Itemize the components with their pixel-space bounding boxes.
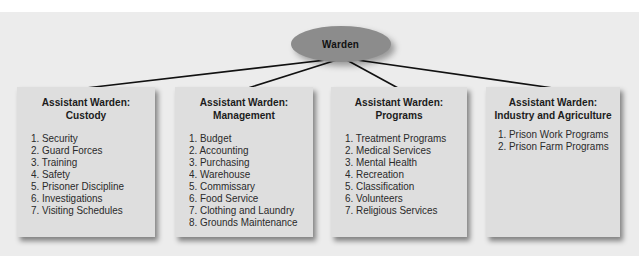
list-item: 2. Prison Farm Programs (498, 140, 608, 152)
programs-node: Assistant Warden: Programs 1. Treatment … (331, 87, 467, 237)
industry-title-line1: Assistant Warden: (494, 96, 612, 109)
management-title: Assistant Warden: Management (183, 96, 304, 122)
custody-title: Assistant Warden: Custody (25, 96, 146, 122)
custody-title-line2: Custody (25, 109, 146, 122)
programs-title-line1: Assistant Warden: (339, 96, 459, 109)
list-item: 7. Clothing and Laundry (189, 204, 301, 216)
management-title-line1: Assistant Warden: (183, 96, 304, 109)
list-item: 1. Security (31, 132, 143, 144)
programs-list: 1. Treatment Programs 2. Medical Service… (331, 132, 467, 216)
list-item: 7. Religious Services (345, 204, 455, 216)
list-item: 8. Grounds Maintenance (189, 216, 301, 228)
list-item: 2. Medical Services (345, 144, 455, 156)
warden-label: Warden (322, 38, 359, 50)
list-item: 4. Warehouse (189, 168, 301, 180)
industry-agriculture-list: 1. Prison Work Programs 2. Prison Farm P… (486, 128, 620, 152)
management-title-line2: Management (183, 109, 304, 122)
list-item: 6. Food Service (189, 192, 301, 204)
custody-title-line1: Assistant Warden: (25, 96, 146, 109)
list-item: 7. Visiting Schedules (31, 204, 143, 216)
industry-agriculture-node: Assistant Warden: Industry and Agricultu… (486, 87, 620, 237)
management-list: 1. Budget 2. Accounting 3. Purchasing 4.… (175, 132, 313, 228)
list-item: 3. Mental Health (345, 156, 455, 168)
list-item: 3. Training (31, 156, 143, 168)
list-item: 4. Safety (31, 168, 143, 180)
list-item: 5. Classification (345, 180, 455, 192)
list-item: 2. Accounting (189, 144, 301, 156)
list-item: 2. Guard Forces (31, 144, 143, 156)
industry-title-line2: Industry and Agriculture (494, 109, 612, 122)
list-item: 1. Budget (189, 132, 301, 144)
custody-node: Assistant Warden: Custody 1. Security 2.… (17, 87, 155, 237)
custody-list: 1. Security 2. Guard Forces 3. Training … (17, 132, 155, 216)
list-item: 4. Recreation (345, 168, 455, 180)
list-item: 5. Commissary (189, 180, 301, 192)
list-item: 5. Prisoner Discipline (31, 180, 143, 192)
list-item: 6. Investigations (31, 192, 143, 204)
industry-agriculture-title: Assistant Warden: Industry and Agricultu… (494, 96, 612, 122)
warden-node: Warden (291, 26, 391, 62)
management-node: Assistant Warden: Management 1. Budget 2… (175, 87, 313, 237)
programs-title-line2: Programs (339, 109, 459, 122)
list-item: 3. Purchasing (189, 156, 301, 168)
programs-title: Assistant Warden: Programs (339, 96, 459, 122)
list-item: 6. Volunteers (345, 192, 455, 204)
list-item: 1. Prison Work Programs (498, 128, 608, 140)
list-item: 1. Treatment Programs (345, 132, 455, 144)
